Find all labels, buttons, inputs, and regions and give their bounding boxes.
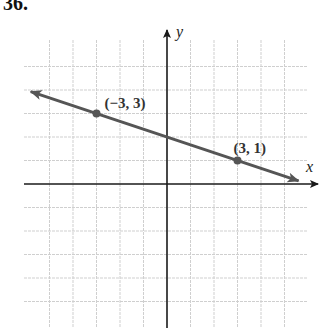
data-point — [234, 157, 242, 165]
point-label: (−3, 3) — [105, 95, 146, 112]
graph-figure: 36. xy(−3, 3)(3, 1) — [0, 0, 334, 334]
coordinate-plane: xy(−3, 3)(3, 1) — [0, 0, 334, 334]
graphed-line — [31, 92, 299, 181]
y-axis-label: y — [174, 23, 184, 41]
point-label: (3, 1) — [234, 140, 267, 157]
data-point — [93, 110, 101, 118]
x-axis-label: x — [305, 158, 313, 175]
